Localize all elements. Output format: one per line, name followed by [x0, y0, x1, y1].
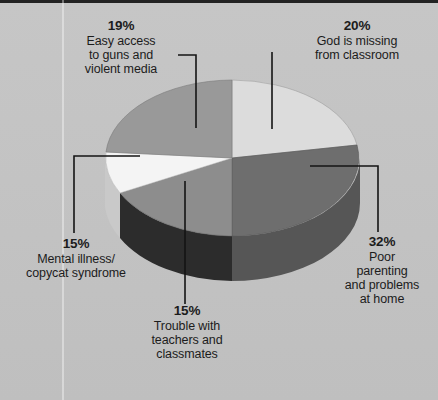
label-line: Poor [330, 250, 434, 264]
label-line: God is missing [286, 34, 428, 48]
label-line: from classroom [286, 48, 428, 62]
label-percent: 32% [330, 234, 434, 250]
slice-top-guns [106, 80, 232, 158]
label-line: Easy access [60, 34, 182, 48]
label-line: copycat syndrome [2, 266, 150, 280]
slice-top-god [232, 80, 357, 158]
label-percent: 15% [2, 236, 150, 252]
label-percent: 15% [126, 303, 248, 319]
chart-canvas: 19% Easy access to guns and violent medi… [0, 0, 438, 400]
label-line: at home [330, 292, 434, 306]
label-percent: 19% [60, 18, 182, 34]
label-line: classmates [126, 347, 248, 361]
label-poor-parenting: 32% Poor parenting and problems at home [330, 234, 434, 306]
label-line: parenting [330, 264, 434, 278]
label-easy-access-guns: 19% Easy access to guns and violent medi… [60, 18, 182, 76]
label-line: to guns and [60, 48, 182, 62]
label-line: Trouble with [126, 319, 248, 333]
label-mental-illness-copycat: 15% Mental illness/ copycat syndrome [2, 236, 150, 280]
label-line: violent media [60, 62, 182, 76]
label-line: and problems [330, 278, 434, 292]
label-line: Mental illness/ [2, 252, 150, 266]
label-line: teachers and [126, 333, 248, 347]
label-percent: 20% [286, 18, 428, 34]
label-god-missing-classroom: 20% God is missing from classroom [286, 18, 428, 62]
label-trouble-teachers-classmates: 15% Trouble with teachers and classmates [126, 303, 248, 361]
